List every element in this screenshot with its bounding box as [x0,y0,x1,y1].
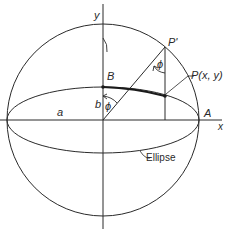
point-p-dot [163,94,167,98]
label-ellipse: Ellipse [146,153,175,163]
label-semi-major-a: a [57,107,63,118]
point-b-dot [101,85,105,89]
label-point-p: P(x, y) [191,70,223,81]
radius-line-to-p-prime [103,47,165,120]
label-angle-center: ϕ [105,101,111,112]
label-semi-minor-b: b [95,99,101,110]
leader-line-p [166,76,188,94]
label-point-p-prime: P' [168,37,177,48]
ellipse-construction-diagram: y x B P' P(x, y) A a b ϕ ϕ Ellipse [0,0,240,233]
label-y-axis: y [94,10,100,21]
label-point-a: A [204,108,211,119]
label-point-b: B [107,71,114,82]
label-angle-top: ϕ [157,59,163,70]
label-x-axis: x [218,122,223,132]
rotation-mark [103,38,107,52]
